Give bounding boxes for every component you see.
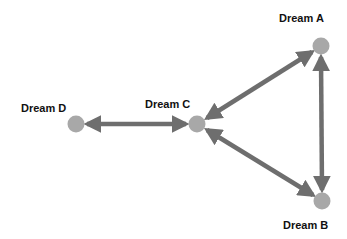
edge-a-b [321, 57, 322, 190]
node-dream-b[interactable] [314, 193, 331, 210]
node-dream-a[interactable] [313, 38, 330, 55]
node-dream-d[interactable] [68, 116, 85, 133]
dream-network-diagram: Dream A Dream B Dream C Dream D [0, 0, 347, 239]
node-dream-c[interactable] [189, 116, 206, 133]
edge-a-c [207, 52, 312, 118]
label-dream-c: Dream C [145, 98, 190, 110]
label-dream-a: Dream A [279, 12, 324, 24]
edge-b-c [207, 130, 313, 195]
label-dream-b: Dream B [283, 219, 328, 231]
label-dream-d: Dream D [21, 102, 66, 114]
